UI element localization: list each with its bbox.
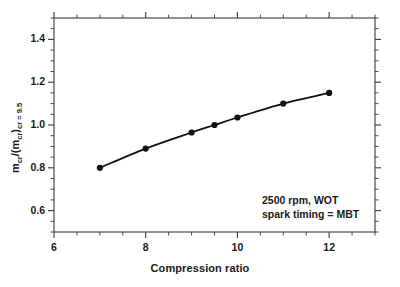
x-tick-label: 8 <box>134 241 158 253</box>
y-tick-label: 1.2 <box>18 75 45 87</box>
data-point-marker <box>211 122 217 128</box>
y-label-denominator-open: /(m <box>9 140 21 157</box>
y-tick-label: 1.0 <box>18 118 45 130</box>
x-axis-label: Compression ratio <box>0 262 400 274</box>
data-point-marker <box>143 145 149 151</box>
y-tick-label: 1.4 <box>18 32 45 44</box>
x-tick-label: 10 <box>225 241 249 253</box>
y-tick-label: 0.8 <box>18 161 45 173</box>
data-point-marker <box>188 129 194 135</box>
y-label-denominator-sub: cr <box>15 133 24 140</box>
annotation-operating-condition: 2500 rpm, WOT <box>262 194 338 206</box>
data-point-marker <box>326 90 332 96</box>
data-point-marker <box>97 165 103 171</box>
x-tick-label: 6 <box>42 241 66 253</box>
data-point-marker <box>234 114 240 120</box>
x-tick-label: 12 <box>317 241 341 253</box>
y-axis-label-wrapper: mcr/(mcr)cr = 9.5 <box>2 78 28 198</box>
y-tick-label: 0.6 <box>18 204 45 216</box>
annotation-spark-timing: spark timing = MBT <box>262 208 359 220</box>
chart-figure: Compression ratio mcr/(mcr)cr = 9.5 6810… <box>0 0 400 287</box>
data-point-marker <box>280 101 286 107</box>
